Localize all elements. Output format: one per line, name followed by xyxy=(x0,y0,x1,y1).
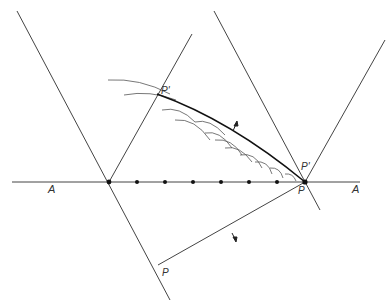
small-arcs xyxy=(162,109,296,181)
construction-lines xyxy=(12,11,385,300)
geometric-construction-diagram: A A P' P' P P xyxy=(0,0,391,301)
axis-dot xyxy=(163,180,167,184)
small-arc xyxy=(255,162,272,174)
envelope-curve xyxy=(157,94,305,182)
left-inner-line xyxy=(109,34,192,182)
label-axis-right: A xyxy=(351,183,359,195)
small-arc xyxy=(175,120,210,140)
axis-dot xyxy=(191,180,195,184)
label-p-prime-top: P' xyxy=(161,85,171,96)
axis-dot xyxy=(247,180,251,184)
label-p-bottom: P xyxy=(162,267,169,278)
axis-dot xyxy=(275,180,279,184)
small-arc xyxy=(205,133,232,148)
small-arc xyxy=(285,174,296,181)
label-p-prime-right: P' xyxy=(301,161,311,172)
right-outer-line xyxy=(305,40,385,182)
left-outer-line xyxy=(17,11,170,300)
arrow-down-icon xyxy=(232,233,237,242)
axis-dot xyxy=(302,179,307,184)
axis-dot xyxy=(135,180,139,184)
arrow-up-icon xyxy=(233,121,238,131)
label-p-right: P xyxy=(298,185,305,196)
lower-slant-line xyxy=(158,182,305,265)
axis-dot xyxy=(107,180,112,185)
axis-dot xyxy=(219,180,223,184)
label-axis-left: A xyxy=(47,183,55,195)
